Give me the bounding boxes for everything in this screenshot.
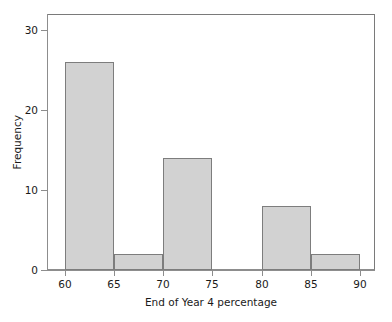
- x-tick-label: 70: [143, 279, 183, 290]
- y-tick-label: 20: [0, 105, 38, 116]
- x-tick-mark: [360, 270, 361, 276]
- x-axis-line: [47, 270, 375, 271]
- plot-area: [47, 14, 375, 270]
- x-tick-label: 65: [94, 279, 134, 290]
- x-axis-title: End of Year 4 percentage: [47, 297, 375, 308]
- x-tick-mark: [114, 270, 115, 276]
- x-tick-label: 75: [192, 279, 232, 290]
- y-tick-label: 30: [0, 25, 38, 36]
- y-axis-line: [47, 14, 48, 270]
- x-tick-label: 80: [242, 279, 282, 290]
- x-tick-mark: [163, 270, 164, 276]
- y-tick-mark: [41, 30, 47, 31]
- x-tick-label: 85: [291, 279, 331, 290]
- histogram-bar: [65, 62, 114, 270]
- histogram-chart: 0102030 60657075808590 Frequency End of …: [0, 0, 392, 322]
- x-tick-mark: [65, 270, 66, 276]
- y-tick-label: 10: [0, 185, 38, 196]
- histogram-bar: [163, 158, 212, 270]
- x-tick-label: 60: [45, 279, 85, 290]
- histogram-bar: [114, 254, 163, 270]
- x-tick-label: 90: [340, 279, 380, 290]
- x-tick-mark: [311, 270, 312, 276]
- y-tick-label: 0: [0, 265, 38, 276]
- histogram-bar: [311, 254, 360, 270]
- y-tick-mark: [41, 270, 47, 271]
- histogram-bar: [262, 206, 311, 270]
- y-tick-mark: [41, 110, 47, 111]
- x-tick-mark: [262, 270, 263, 276]
- x-tick-mark: [212, 270, 213, 276]
- y-tick-mark: [41, 190, 47, 191]
